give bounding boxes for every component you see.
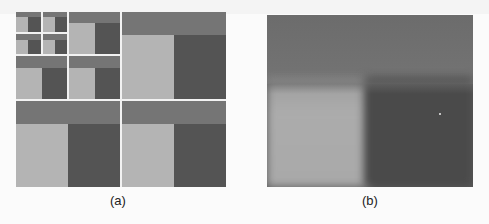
panel-a-q0-q0-q0-block: [16, 12, 41, 32]
panel-a-q0-q0-q1-block-light: [43, 17, 55, 32]
panel-a-q1-block-dark: [174, 35, 226, 98]
panel-a-q0-q3-block: [69, 56, 120, 98]
panel-a-q0-q0-q1-block-dark: [55, 17, 67, 32]
panel-a-q0-q3-block-dark: [95, 68, 121, 99]
panel-a-q0-q1-block-dark: [95, 23, 121, 54]
panel-a-q1-block-band: [122, 12, 226, 35]
panel-a-q0-q0-q3-block-light: [43, 40, 55, 55]
panel-a-q0-q3-block-light: [69, 68, 95, 99]
panel-a-q0-q0-q2-block: [16, 34, 41, 54]
panel-a-q0-q0-q0-block-dark: [28, 17, 40, 32]
panel-a-q0-q0-q1-block: [43, 12, 68, 32]
panel-a-q3-block-dark: [174, 124, 226, 187]
panel-a-q0-q1-block: [69, 12, 120, 54]
panel-a-q3-block-light: [122, 124, 174, 187]
panel-a-q0-q0-q2-block-light: [16, 40, 28, 55]
panel-a-q0-q0-q2-block-dark: [28, 40, 40, 55]
panel-a-q1-block: [122, 12, 226, 99]
panel-a-q0-q1-block-band: [69, 12, 120, 23]
panel-a-q2-block-band: [16, 101, 120, 124]
panel-a-q0-q2-block-light: [16, 68, 42, 99]
panel-b-caption: (b): [362, 193, 378, 208]
panel-a-figure: [16, 12, 226, 187]
panel-a-caption: (a): [110, 193, 126, 208]
panel-a-q0-q2-block-dark: [42, 68, 68, 99]
panel-a-q2-block-light: [16, 124, 68, 187]
panel-a-q0-q1-block-light: [69, 23, 95, 54]
panel-b-speck: [439, 113, 441, 115]
panel-a-q1-block-light: [122, 35, 174, 98]
panel-b-light-block: [267, 80, 370, 187]
panel-a-q0-q0-q0-block-light: [16, 17, 28, 32]
panel-a-q2-block-dark: [68, 124, 120, 187]
panel-a-q3-block: [122, 101, 226, 188]
panel-b-edge-blur: [267, 73, 473, 94]
panel-a-q0-q3-block-band: [69, 56, 120, 67]
panel-a-q0-q0-q3-block-dark: [55, 40, 67, 55]
panel-a-q2-block: [16, 101, 120, 188]
panel-b-figure: [267, 15, 473, 187]
panel-a-q0-q2-block: [16, 56, 67, 98]
panel-a-q3-block-band: [122, 101, 226, 124]
panel-a-q0-q0-q3-block: [43, 34, 68, 54]
panel-a-q0-q2-block-band: [16, 56, 67, 67]
